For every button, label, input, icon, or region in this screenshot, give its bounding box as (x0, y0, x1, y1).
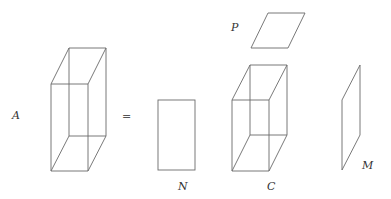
label-n: N (177, 180, 188, 193)
box-c (232, 65, 287, 171)
label-m: M (361, 159, 374, 172)
decomposition-diagram: A = N P C M (0, 0, 391, 199)
parallelogram-p (251, 13, 305, 48)
label-a: A (11, 109, 20, 122)
equals-sign: = (122, 110, 131, 123)
box-a (51, 48, 106, 171)
rectangle-n (158, 100, 195, 170)
parallelogram-m (342, 65, 360, 170)
label-p: P (230, 21, 239, 34)
label-c: C (267, 180, 276, 193)
